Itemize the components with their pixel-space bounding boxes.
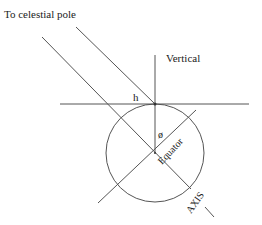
celestial-pole-label: To celestial pole: [4, 8, 76, 20]
altitude-h-label: h: [133, 91, 139, 103]
celestial-geometry-diagram: To celestial pole Vertical h ø Equator A…: [0, 0, 262, 225]
latitude-phi-label: ø: [158, 129, 163, 140]
axis-label: AXIS: [184, 190, 206, 215]
pole-sightline: [76, 27, 155, 104]
earth-axis-tail: [205, 207, 214, 217]
observer-point: [154, 103, 157, 106]
equator-line: [98, 110, 196, 203]
center-point: [154, 152, 156, 154]
vertical-label: Vertical: [166, 52, 200, 64]
